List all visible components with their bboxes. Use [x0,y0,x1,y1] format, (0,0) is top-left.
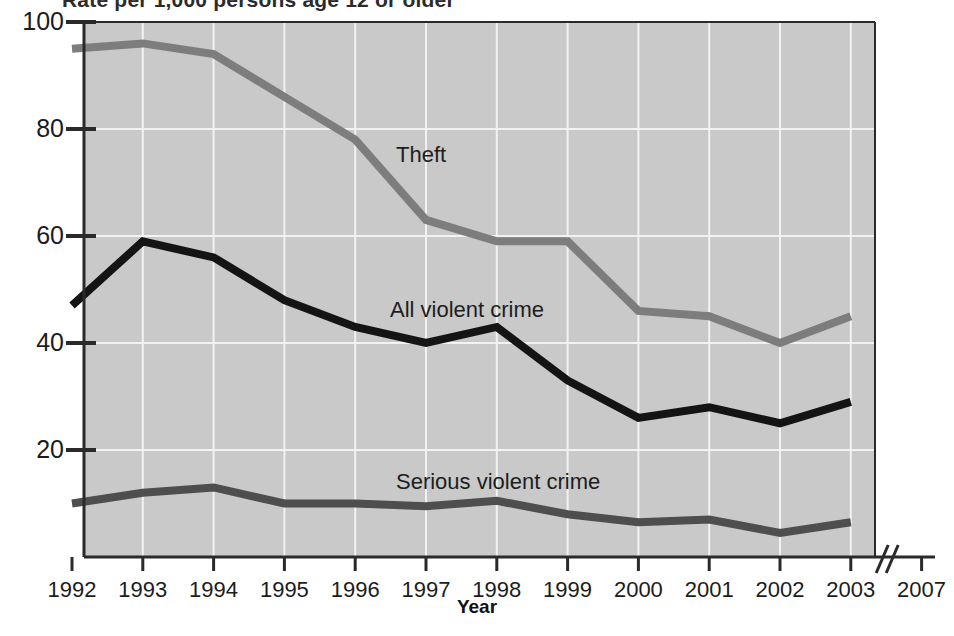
x-axis-tick-label: 1993 [107,579,179,601]
series-label-serious-violent-crime: Serious violent crime [396,471,600,493]
x-axis-tick-label: 2007 [886,579,954,601]
x-axis-tick-label: 1995 [248,579,320,601]
series-label-theft: Theft [396,144,446,166]
x-axis-tick-label: 1992 [36,579,108,601]
crime-rate-line-chart: Rate per 1,000 persons age 12 or older 1… [0,0,954,636]
y-axis-tick-label: 60 [8,223,64,248]
series-label-all-violent-crime: All violent crime [390,299,544,321]
y-axis-tick-label: 20 [8,437,64,462]
x-axis-tick-label: 1994 [178,579,250,601]
chart-heading-clipped: Rate per 1,000 persons age 12 or older [62,0,455,12]
x-axis-tick-label: 2002 [744,579,816,601]
y-axis-tick-label: 80 [8,116,64,141]
x-axis-tick-label: 2003 [815,579,887,601]
y-axis-tick-label: 40 [8,330,64,355]
x-axis-tick-label: 2000 [602,579,674,601]
x-axis-title: Year [377,597,577,616]
axis-break-mark [876,545,898,573]
x-axis-tick-label: 2001 [673,579,745,601]
y-axis-tick-label: 100 [8,9,64,34]
